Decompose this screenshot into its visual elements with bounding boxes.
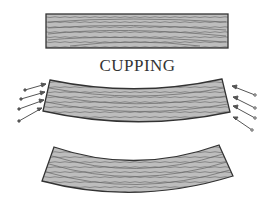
diagram-title: CUPPING bbox=[0, 56, 275, 76]
cupped-board bbox=[42, 145, 233, 192]
flat-board bbox=[46, 14, 228, 48]
cupping-diagram bbox=[0, 0, 275, 207]
left-arrows-icon bbox=[18, 83, 46, 122]
right-arrows-icon bbox=[232, 85, 256, 131]
cupping-board bbox=[43, 79, 230, 122]
